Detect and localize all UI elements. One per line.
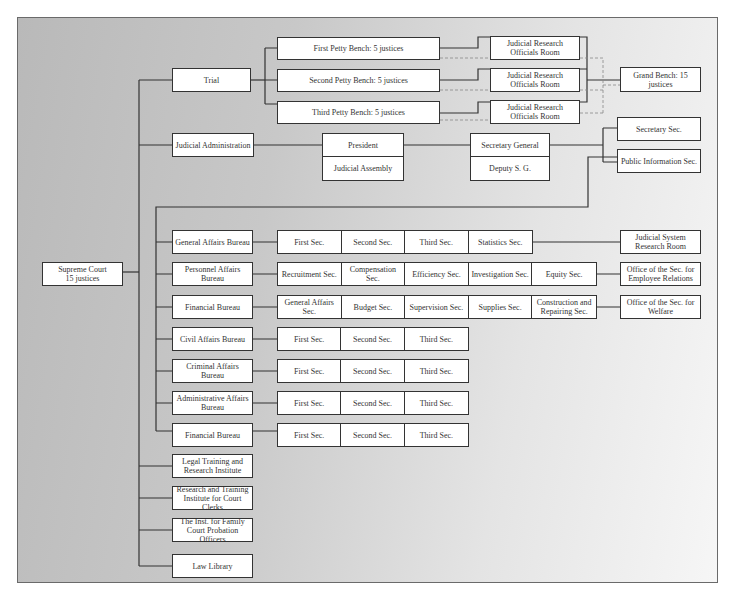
supreme-court-box: Supreme Court 15 justices: [42, 262, 123, 286]
judicial-system-research-room-box: Judicial System Research Room: [620, 230, 701, 254]
bureau-financial: Financial Bureau: [172, 295, 253, 319]
section-cell: Construction and Repairing Sec.: [532, 296, 596, 318]
section-cell: Equity Sec.: [532, 263, 596, 285]
first-petty-bench-box: First Petty Bench: 5 justices: [277, 37, 440, 60]
law-library-box: Law Library: [172, 554, 253, 578]
section-cell: Third Sec.: [405, 231, 469, 253]
section-cell: First Sec.: [278, 360, 341, 382]
section-cell: Second Sec.: [341, 360, 404, 382]
section-cell: Third Sec.: [405, 328, 468, 350]
section-cell: Efficiency Sec.: [405, 263, 469, 285]
employee-relations-office-box: Office of the Sec. for Employee Relation…: [620, 262, 701, 286]
section-cell: Third Sec.: [405, 392, 468, 414]
secretary-general-label: Secretary General: [471, 134, 549, 157]
section-cell: General Affairs Sec.: [278, 296, 342, 318]
financial-2-sections: First Sec. Second Sec. Third Sec.: [277, 423, 469, 447]
section-cell: Second Sec.: [341, 424, 404, 446]
section-cell: Investigation Sec.: [469, 263, 533, 285]
third-petty-bench-box: Third Petty Bench: 5 justices: [277, 101, 440, 124]
section-cell: First Sec.: [278, 328, 341, 350]
bureau-civil-affairs: Civil Affairs Bureau: [172, 327, 253, 351]
section-cell: First Sec.: [278, 392, 341, 414]
section-cell: Third Sec.: [405, 360, 468, 382]
financial-sections: General Affairs Sec. Budget Sec. Supervi…: [277, 295, 597, 319]
section-cell: Second Sec.: [342, 231, 406, 253]
secretary-general-box: Secretary General Deputy S. G.: [470, 133, 550, 181]
legal-training-institute-box: Legal Training and Research Institute: [172, 454, 253, 478]
family-court-institute-box: The Inst. for Family Court Probation Off…: [172, 518, 253, 542]
president-label: President: [323, 134, 403, 157]
bureau-financial-2: Financial Bureau: [172, 423, 253, 447]
section-cell: Supervision Sec.: [405, 296, 469, 318]
section-cell: Third Sec.: [405, 424, 468, 446]
research-room-3-box: Judicial Research Officials Room: [490, 100, 580, 124]
personnel-affairs-sections: Recruitment Sec. Compensation Sec. Effic…: [277, 262, 597, 286]
research-room-2-box: Judicial Research Officials Room: [490, 68, 580, 92]
section-cell: Budget Sec.: [342, 296, 406, 318]
grand-bench-box: Grand Bench: 15 justices: [620, 67, 701, 92]
bureau-administrative-affairs: Administrative Affairs Bureau: [172, 391, 253, 415]
research-room-1-box: Judicial Research Officials Room: [490, 36, 580, 60]
section-cell: First Sec.: [278, 231, 342, 253]
public-information-sec-box: Public Information Sec.: [617, 149, 701, 173]
welfare-office-box: Office of the Sec. for Welfare: [620, 295, 701, 319]
section-cell: Compensation Sec.: [342, 263, 406, 285]
general-affairs-sections: First Sec. Second Sec. Third Sec. Statis…: [277, 230, 533, 254]
bureau-personnel-affairs: Personnel Affairs Bureau: [172, 262, 253, 286]
section-cell: Statistics Sec.: [469, 231, 533, 253]
bureau-general-affairs: General Affairs Bureau: [172, 230, 253, 254]
judicial-assembly-label: Judicial Assembly: [323, 157, 403, 180]
trial-box: Trial: [172, 68, 251, 92]
bureau-criminal-affairs: Criminal Affairs Bureau: [172, 359, 253, 383]
section-cell: First Sec.: [278, 424, 341, 446]
section-cell: Supplies Sec.: [469, 296, 533, 318]
deputy-sg-label: Deputy S. G.: [471, 157, 549, 180]
section-cell: Recruitment Sec.: [278, 263, 342, 285]
secretary-sec-box: Secretary Sec.: [617, 117, 701, 141]
second-petty-bench-box: Second Petty Bench: 5 justices: [277, 69, 440, 92]
civil-affairs-sections: First Sec. Second Sec. Third Sec.: [277, 327, 469, 351]
section-cell: Second Sec.: [341, 392, 404, 414]
criminal-affairs-sections: First Sec. Second Sec. Third Sec.: [277, 359, 469, 383]
court-clerks-institute-box: Research and Training Institute for Cour…: [172, 486, 253, 510]
president-assembly-box: President Judicial Assembly: [322, 133, 404, 181]
judicial-administration-box: Judicial Administration: [172, 133, 254, 157]
administrative-affairs-sections: First Sec. Second Sec. Third Sec.: [277, 391, 469, 415]
section-cell: Second Sec.: [341, 328, 404, 350]
